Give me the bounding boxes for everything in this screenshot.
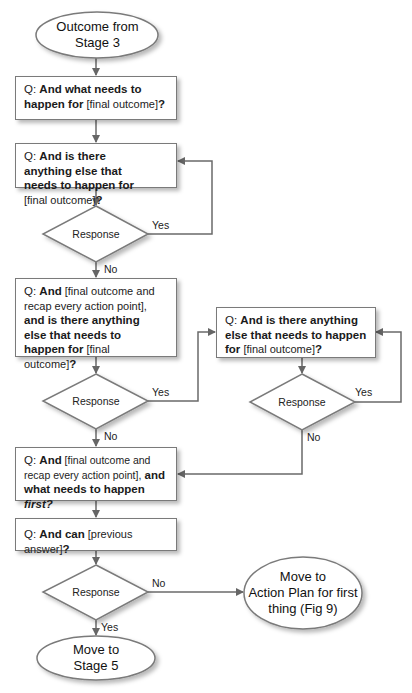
start-label-line1: Outcome from — [56, 19, 138, 34]
end-left-line1: Move to — [73, 642, 119, 657]
end-terminal-action-plan: Move toAction Plan for firstthing (Fig 9… — [244, 557, 362, 629]
decision2-no-label: No — [104, 430, 117, 442]
q-plain: [final outcome] — [83, 98, 158, 110]
q-prefix: Q: — [24, 285, 39, 297]
question-box-5: Q: And can [previous answer]? — [15, 518, 177, 551]
decision2-yes-label: Yes — [152, 386, 169, 398]
decision3-no-label: No — [152, 577, 165, 589]
end-left-line2: Stage 5 — [74, 658, 119, 673]
question-box-4: Q: And [final outcome and recap every ac… — [15, 447, 177, 501]
q-bold: And — [39, 454, 61, 466]
decision3-yes-label: Yes — [101, 621, 118, 633]
q-prefix: Q: — [24, 83, 39, 95]
q-prefix: Q: — [225, 314, 240, 326]
q-bold-2: and is there anything else that needs to… — [24, 314, 140, 355]
q-mark: ? — [69, 358, 76, 370]
decision3-label: Response — [60, 586, 132, 598]
decision-right-yes-label: Yes — [355, 386, 372, 398]
q-bold: And — [39, 285, 61, 297]
end-right-line3: thing (Fig 9) — [268, 601, 337, 616]
question-box-1: Q: And what needs to happen for [final o… — [15, 76, 177, 120]
decision1-label: Response — [60, 228, 132, 240]
q-mark: ? — [158, 98, 165, 110]
q-plain: [final outcome] — [24, 194, 96, 206]
decision-right-no-label: No — [307, 431, 320, 443]
q-prefix: Q: — [24, 528, 39, 540]
q-bold: And can — [39, 528, 84, 540]
question-box-3: Q: And [final outcome and recap every ac… — [15, 278, 177, 357]
q-plain: [final outcome] — [240, 343, 315, 355]
decision-right-label: Response — [266, 396, 338, 408]
q-italic-first: first? — [24, 498, 53, 510]
q-bold: And is there anything else that needs to… — [24, 150, 134, 191]
decision1-no-label: No — [104, 263, 117, 275]
start-label-line2: Stage 3 — [75, 35, 120, 50]
question-box-2: Q: And is there anything else that needs… — [15, 143, 177, 188]
q-mark: ? — [96, 194, 103, 206]
decision1-yes-label: Yes — [152, 219, 169, 231]
q-mark: ? — [63, 543, 70, 555]
q-mark: ? — [315, 343, 322, 355]
decision2-label: Response — [60, 395, 132, 407]
q-prefix: Q: — [24, 454, 39, 466]
q-prefix: Q: — [24, 150, 39, 162]
end-right-line2: Action Plan for first — [248, 585, 357, 600]
question-box-right: Q: And is there anything else that needs… — [216, 307, 376, 358]
end-right-line1: Move to — [280, 569, 326, 584]
start-terminal: Outcome fromStage 3 — [37, 12, 158, 58]
end-terminal-stage5: Move toStage 5 — [37, 636, 155, 680]
